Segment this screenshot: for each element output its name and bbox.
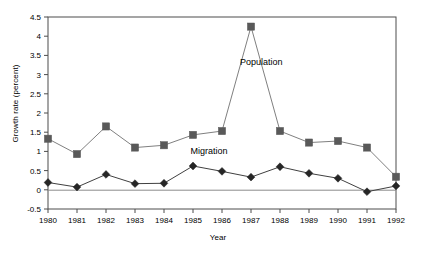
y-axis: -0.500.511.522.533.544.5 [27, 13, 48, 214]
y-tick-label: 3.5 [30, 51, 42, 60]
data-point-population [131, 144, 138, 151]
x-tick-label: 1984 [155, 216, 173, 225]
y-tick-label: 4.5 [30, 13, 42, 22]
growth-rate-line-chart: -0.500.511.522.533.544.5 198019811982198… [0, 0, 436, 254]
data-point-population [305, 139, 312, 146]
x-tick-label: 1987 [242, 216, 260, 225]
y-tick-label: 2.5 [30, 90, 42, 99]
x-tick-label: 1990 [329, 216, 347, 225]
chart-plot-area: -0.500.511.522.533.544.5 198019811982198… [0, 0, 436, 254]
data-point-population [218, 127, 225, 134]
data-point-population [73, 150, 80, 157]
y-axis-title-wrapper: Growth rate (percent) [0, 0, 18, 214]
x-tick-label: 1980 [39, 216, 57, 225]
x-axis-title: Year [0, 233, 436, 242]
y-tick-label: 0 [37, 186, 42, 195]
data-point-population [363, 144, 370, 151]
y-tick-label: 1 [37, 147, 42, 156]
data-point-population [276, 127, 283, 134]
x-tick-label: 1989 [300, 216, 318, 225]
data-point-population [44, 135, 51, 142]
x-tick-label: 1983 [126, 216, 144, 225]
data-point-population [334, 137, 341, 144]
y-tick-label: 0.5 [30, 167, 42, 176]
series-label-migration: Migration [190, 146, 227, 156]
y-axis-title: Growth rate (percent) [11, 44, 20, 164]
data-point-population [189, 131, 196, 138]
x-tick-label: 1991 [358, 216, 376, 225]
y-tick-label: 2 [37, 109, 42, 118]
plot-frame [48, 17, 396, 209]
x-tick-label: 1982 [97, 216, 115, 225]
y-tick-label: 1.5 [30, 128, 42, 137]
x-tick-label: 1992 [387, 216, 405, 225]
data-point-population [247, 23, 254, 30]
data-point-population [160, 142, 167, 149]
y-tick-label: 3 [37, 71, 42, 80]
series-label-population: Population [240, 57, 283, 67]
y-tick-label: 4 [37, 32, 42, 41]
data-point-population [392, 173, 399, 180]
x-tick-label: 1986 [213, 216, 231, 225]
x-axis: 1980198119821983198419851986198719881989… [39, 209, 405, 225]
x-tick-label: 1985 [184, 216, 202, 225]
x-tick-label: 1988 [271, 216, 289, 225]
x-tick-label: 1981 [68, 216, 86, 225]
data-point-population [102, 123, 109, 130]
y-tick-label: -0.5 [27, 205, 41, 214]
